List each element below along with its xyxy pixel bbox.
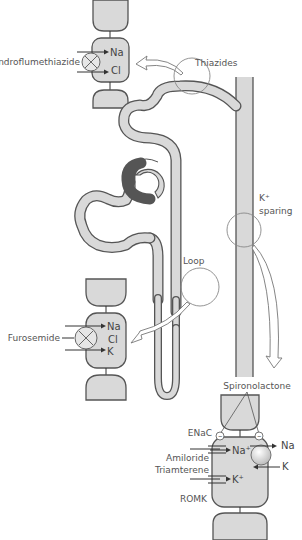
pump-ion-na: Na <box>281 440 295 451</box>
ion-na: Na <box>107 321 121 332</box>
loop-site-circle <box>181 268 219 306</box>
k-sparing-arrow-icon <box>252 245 282 368</box>
drug-triamterene: Triamterene <box>154 465 209 475</box>
ion-k-plus: K⁺ <box>232 474 244 485</box>
svg-text:−: − <box>218 433 222 440</box>
drug-furosemide: Furosemide <box>8 333 61 343</box>
diuretic-diagram: Na Cl Bendroflumethiazide Thiazides Loop <box>0 0 302 540</box>
label-thiazides: Thiazides <box>194 58 238 68</box>
thiazide-arrow-icon <box>136 56 183 75</box>
drug-bendroflumethiazide: Bendroflumethiazide <box>0 57 80 67</box>
ion-cl: Cl <box>111 65 121 76</box>
label-loop: Loop <box>183 256 205 266</box>
label-romk: ROMK <box>180 494 208 504</box>
ion-na-plus: Na⁺ <box>232 445 251 456</box>
label-k-sparing-1: K⁺ <box>259 193 270 203</box>
drug-spironolactone: Spironolactone <box>223 381 291 391</box>
ion-na: Na <box>110 47 124 58</box>
label-k-sparing-2: sparing <box>259 206 293 216</box>
ion-cl: Cl <box>108 334 118 345</box>
pump-ion-k: K <box>282 461 289 472</box>
drug-amiloride: Amiloride <box>166 453 209 463</box>
label-enac: ENaC <box>188 428 212 438</box>
ion-k: K <box>107 346 114 357</box>
svg-text:−: − <box>257 433 261 440</box>
na-k-pump-icon <box>251 445 271 465</box>
